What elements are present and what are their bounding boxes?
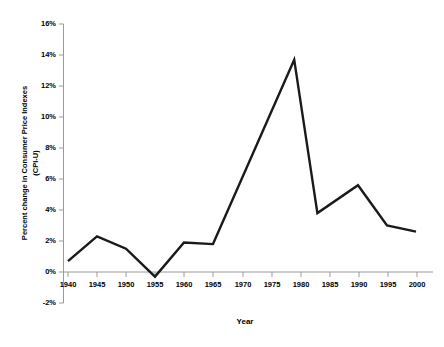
y-tick-label-14: 14% (26, 50, 56, 59)
x-tick-label-1990: 1990 (344, 280, 374, 289)
x-tick-label-1965: 1965 (198, 280, 228, 289)
x-tick-marks (68, 272, 417, 277)
y-axis-title-line1: Percent change in Consumer Price Indexes (20, 86, 29, 240)
y-tick-label-16: 16% (26, 19, 56, 28)
x-tick-label-1950: 1950 (111, 280, 141, 289)
x-tick-label-1985: 1985 (315, 280, 345, 289)
x-tick-label-1995: 1995 (373, 280, 403, 289)
x-tick-label-1945: 1945 (82, 280, 112, 289)
x-tick-label-1955: 1955 (140, 280, 170, 289)
x-tick-label-1940: 1940 (53, 280, 83, 289)
y-tick-label-neg2: -2% (26, 298, 56, 307)
x-tick-label-1960: 1960 (169, 280, 199, 289)
x-tick-label-1975: 1975 (257, 280, 287, 289)
y-axis-title-line2: (CPI-U) (31, 150, 40, 175)
y-tick-label-0: 0% (26, 267, 56, 276)
plot-area (0, 0, 444, 347)
x-tick-label-1980: 1980 (286, 280, 316, 289)
data-series-line (68, 60, 416, 277)
y-axis-title: Percent change in Consumer Price Indexes… (19, 68, 41, 258)
x-tick-label-2000: 2000 (402, 280, 432, 289)
y-tick-marks (59, 24, 64, 303)
x-tick-label-1970: 1970 (228, 280, 258, 289)
x-axis-title: Year (175, 317, 315, 326)
cpi-line-chart: 16% 14% 12% 10% 8% 6% 4% 2% 0% -2% 1940 … (0, 0, 444, 347)
